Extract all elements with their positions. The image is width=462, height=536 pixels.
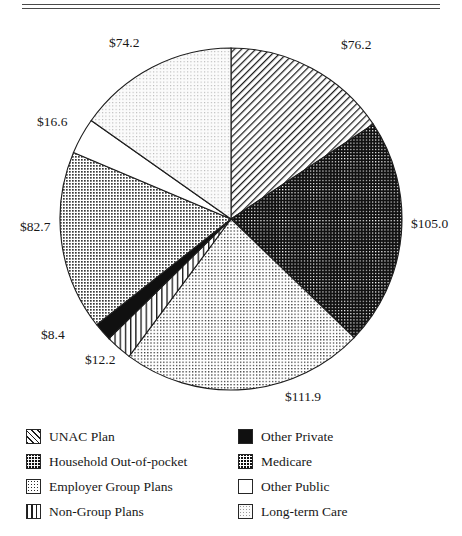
legend-label: Other Public: [261, 479, 330, 495]
legend-swatch-diagonal-hatch-icon: [26, 429, 41, 444]
slice-value-label-nongroup: $12.2: [85, 352, 115, 367]
legend-item-medicare[interactable]: Medicare: [238, 449, 348, 474]
legend-swatch-vertical-lines-icon: [26, 504, 41, 519]
legend-item-employer-group-plans[interactable]: Employer Group Plans: [26, 474, 187, 499]
pie-slices: [60, 48, 402, 390]
pie-chart-figure: $76.2 $105.0 $111.9 $12.2 $8.4 $82.7 $16…: [0, 0, 462, 536]
legend: UNAC Plan Household Out-of-pocket Employ…: [0, 424, 462, 532]
pie-plot-area: $76.2 $105.0 $111.9 $12.2 $8.4 $82.7 $16…: [0, 0, 462, 420]
slice-value-label-household: $111.9: [285, 389, 321, 404]
legend-item-other-private[interactable]: Other Private: [238, 424, 348, 449]
legend-column-left: UNAC Plan Household Out-of-pocket Employ…: [26, 424, 187, 524]
slice-value-label-longtermcare: $74.2: [109, 35, 139, 50]
slice-value-label-unac: $76.2: [341, 37, 371, 52]
legend-item-long-term-care[interactable]: Long-term Care: [238, 499, 348, 524]
legend-item-non-group-plans[interactable]: Non-Group Plans: [26, 499, 187, 524]
legend-swatch-crosshatch-icon: [238, 454, 253, 469]
legend-label: Other Private: [261, 429, 333, 445]
legend-label: Employer Group Plans: [49, 479, 173, 495]
legend-swatch-light-stipple-icon: [238, 504, 253, 519]
legend-swatch-white-icon: [238, 479, 253, 494]
legend-label: Non-Group Plans: [49, 504, 144, 520]
slice-value-label-employer: $82.7: [20, 219, 50, 234]
slice-value-label-otherprivate: $8.4: [41, 327, 65, 342]
legend-item-other-public[interactable]: Other Public: [238, 474, 348, 499]
slice-value-label-medicare: $105.0: [411, 216, 448, 231]
pie-svg: [0, 0, 462, 420]
legend-label: Household Out-of-pocket: [49, 454, 187, 470]
legend-label: Long-term Care: [261, 504, 348, 520]
legend-column-right: Other Private Medicare Other Public Long…: [238, 424, 348, 524]
legend-label: UNAC Plan: [49, 429, 115, 445]
legend-item-unac-plan[interactable]: UNAC Plan: [26, 424, 187, 449]
legend-swatch-light-dot-icon: [26, 479, 41, 494]
legend-swatch-dense-dot-icon: [26, 454, 41, 469]
legend-swatch-solid-black-icon: [238, 429, 253, 444]
legend-label: Medicare: [261, 454, 312, 470]
legend-item-household-out-of-pocket[interactable]: Household Out-of-pocket: [26, 449, 187, 474]
slice-value-label-otherpublic: $16.6: [37, 114, 67, 129]
